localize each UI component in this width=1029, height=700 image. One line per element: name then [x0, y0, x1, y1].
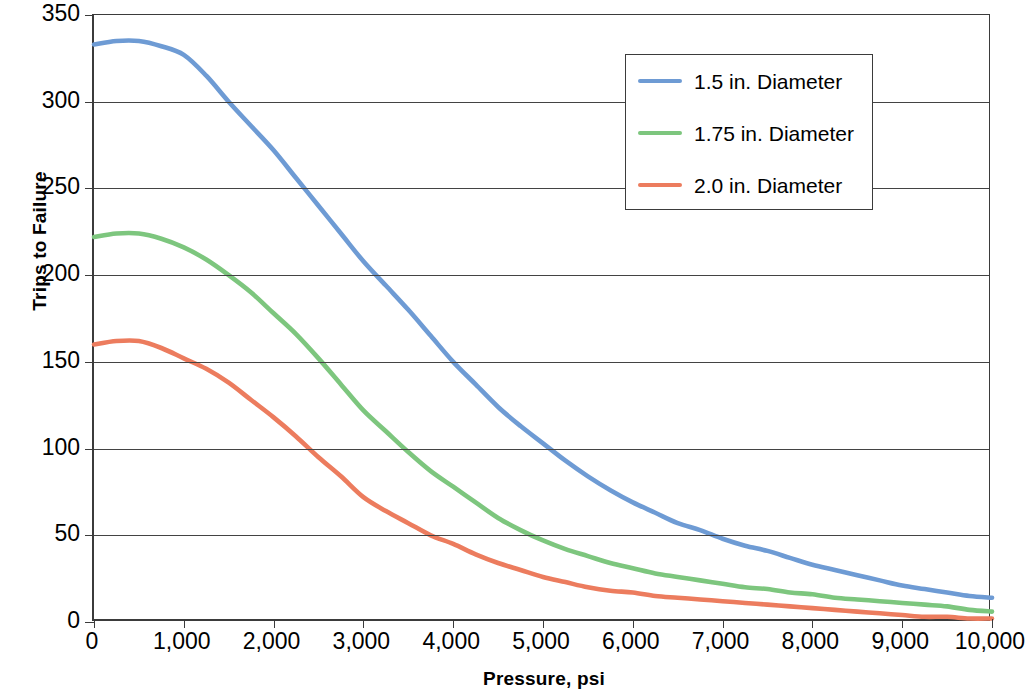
y-tick-label: 350 [10, 2, 80, 25]
x-axis-tick-labels: 01,0002,0003,0004,0005,0006,0007,0008,00… [0, 628, 1023, 662]
x-tick-mark [992, 619, 993, 628]
x-tick-mark [453, 619, 454, 628]
x-axis-title: Pressure, psi [0, 668, 1023, 690]
x-tick-mark [363, 619, 364, 628]
y-tick-mark [85, 449, 94, 450]
series-line [94, 233, 992, 612]
x-tick-mark [633, 619, 634, 628]
y-tick-mark [85, 362, 94, 363]
legend-item-label: 1.75 in. Diameter [694, 123, 854, 144]
y-tick-mark [85, 102, 94, 103]
y-tick-label: 300 [10, 89, 80, 112]
y-axis-tick-labels: 050100150200250300350 [0, 0, 80, 640]
y-tick-mark [85, 15, 94, 16]
gridline [94, 275, 989, 276]
y-tick-label: 100 [10, 436, 80, 459]
legend: 1.5 in. Diameter1.75 in. Diameter2.0 in.… [625, 54, 873, 210]
y-tick-mark [85, 275, 94, 276]
y-tick-mark [85, 535, 94, 536]
legend-color-swatch [638, 183, 682, 188]
gridline [94, 362, 989, 363]
y-tick-label: 150 [10, 349, 80, 372]
y-tick-mark [85, 622, 94, 623]
y-tick-label: 50 [10, 522, 80, 545]
gridline [94, 535, 989, 536]
x-tick-label: 10,000 [930, 628, 1029, 654]
x-tick-mark [902, 619, 903, 628]
legend-item-label: 1.5 in. Diameter [694, 71, 842, 92]
legend-item: 1.75 in. Diameter [626, 107, 872, 159]
y-tick-mark [85, 188, 94, 189]
x-tick-mark [274, 619, 275, 628]
gridline [94, 449, 989, 450]
legend-color-swatch [638, 131, 682, 136]
x-tick-mark [723, 619, 724, 628]
legend-item: 2.0 in. Diameter [626, 159, 872, 211]
y-tick-label: 200 [10, 262, 80, 285]
x-tick-mark [184, 619, 185, 628]
x-tick-mark [812, 619, 813, 628]
x-tick-mark [94, 619, 95, 628]
legend-item-label: 2.0 in. Diameter [694, 175, 842, 196]
x-tick-mark [543, 619, 544, 628]
legend-color-swatch [638, 79, 682, 84]
y-tick-label: 250 [10, 175, 80, 198]
legend-item: 1.5 in. Diameter [626, 55, 872, 107]
